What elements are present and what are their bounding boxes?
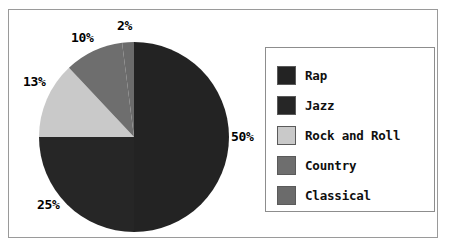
legend-label-rap: Rap xyxy=(305,68,327,83)
pie-slice-rap[interactable] xyxy=(134,42,229,232)
pie-chart-screenshot: 50% 25% 13% 10% 2% Rap Jazz Rock and Rol… xyxy=(0,0,449,250)
figure-border: 50% 25% 13% 10% 2% Rap Jazz Rock and Rol… xyxy=(8,9,438,238)
pie-label-classical: 2% xyxy=(117,18,132,33)
pie-chart xyxy=(39,38,239,238)
legend-items: Rap Jazz Rock and Roll Country Classical xyxy=(277,60,427,210)
legend: Rap Jazz Rock and Roll Country Classical xyxy=(265,47,435,212)
pie-svg xyxy=(39,38,239,238)
pie-label-country: 10% xyxy=(71,30,94,45)
legend-label-classical: Classical xyxy=(305,188,371,203)
pie-label-rap: 50% xyxy=(231,129,254,144)
pie-slice-jazz[interactable] xyxy=(39,137,134,232)
legend-item-country[interactable]: Country xyxy=(277,150,427,180)
legend-swatch-classical xyxy=(277,186,296,205)
legend-item-rock-and-roll[interactable]: Rock and Roll xyxy=(277,120,427,150)
pie-label-jazz: 25% xyxy=(37,197,60,212)
legend-item-classical[interactable]: Classical xyxy=(277,180,427,210)
legend-swatch-jazz xyxy=(277,96,296,115)
legend-label-jazz: Jazz xyxy=(305,98,334,113)
legend-swatch-country xyxy=(277,156,296,175)
pie-label-rock-and-roll: 13% xyxy=(23,74,46,89)
legend-swatch-rock-and-roll xyxy=(277,126,296,145)
legend-label-country: Country xyxy=(305,158,356,173)
legend-item-rap[interactable]: Rap xyxy=(277,60,427,90)
legend-item-jazz[interactable]: Jazz xyxy=(277,90,427,120)
legend-label-rock-and-roll: Rock and Roll xyxy=(305,128,400,143)
legend-swatch-rap xyxy=(277,66,296,85)
